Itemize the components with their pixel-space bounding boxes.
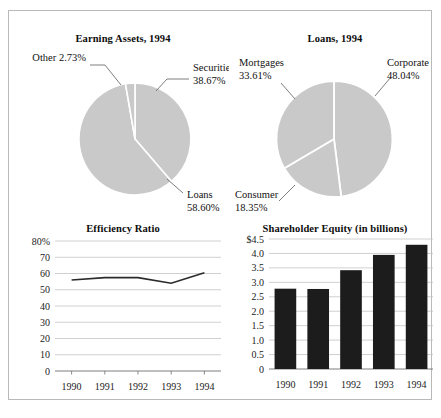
equity-x-tick: 1992	[341, 379, 361, 390]
efficiency-x-tick: 1991	[95, 381, 115, 392]
leader-line-mortgages	[281, 83, 295, 99]
efficiency-y-tick: 30	[40, 317, 50, 328]
efficiency-x-tick: 1992	[128, 381, 148, 392]
chart-title-earning-assets: Earning Assets, 1994	[17, 33, 229, 44]
leader-line-consumer	[279, 185, 295, 201]
equity-bar	[340, 270, 362, 369]
efficiency-y-tick: 50	[40, 284, 50, 295]
pie-label-other: Other 2.73%	[32, 52, 86, 63]
equity-y-tick: 1.5	[252, 320, 265, 331]
shareholder-equity-svg: 00.51.01.52.02.53.03.54.0$4.5 1990199119…	[229, 217, 441, 411]
chart-shareholder-equity: Shareholder Equity (in billions) 00.51.0…	[229, 217, 441, 411]
pie-label-securities: Securities	[193, 62, 229, 73]
equity-y-tick: 4.0	[252, 248, 265, 259]
chart-loans: Loans, 1994 Corporate 48.04% Mortgages 3…	[229, 21, 441, 217]
equity-y-tick: 0	[259, 364, 264, 375]
pie-value-securities: 38.67%	[193, 75, 226, 86]
equity-x-tick: 1990	[275, 379, 295, 390]
chart-efficiency-ratio: Efficiency Ratio 01020304050607080% 1990…	[17, 217, 229, 411]
pie-value-consumer: 18.35%	[235, 202, 268, 213]
efficiency-y-tick: 70	[40, 252, 50, 263]
earning-assets-pie-svg: Securities 38.67% Other 2.73% Loans 58.6…	[17, 21, 229, 217]
pie-label-consumer: Consumer	[235, 189, 279, 200]
chart-title-shareholder-equity: Shareholder Equity (in billions)	[229, 223, 441, 234]
equity-y-tick: 1.0	[252, 335, 265, 346]
equity-x-tick-labels: 19901991199219931994	[275, 379, 426, 390]
equity-x-tick: 1993	[374, 379, 394, 390]
pie-value-loans: 58.60%	[187, 202, 220, 213]
pie-label-corporate: Corporate	[387, 57, 429, 68]
efficiency-y-tick: 10	[40, 349, 50, 360]
pie-slice-corporate	[334, 81, 392, 197]
efficiency-x-tick: 1993	[161, 381, 181, 392]
equity-x-tick: 1994	[407, 379, 427, 390]
equity-bar	[406, 245, 428, 369]
equity-y-tick: 3.5	[252, 262, 265, 273]
equity-bar	[275, 289, 297, 369]
figure-frame: Earning Assets, 1994 Securities 38.67% O…	[8, 10, 432, 400]
efficiency-x-tick: 1990	[62, 381, 82, 392]
chart-title-efficiency-ratio: Efficiency Ratio	[17, 223, 229, 234]
efficiency-grid	[55, 241, 221, 375]
equity-y-tick: 2.0	[252, 306, 265, 317]
equity-bars	[275, 245, 428, 369]
leader-line-other	[90, 65, 121, 85]
efficiency-x-tick-labels: 19901991199219931994	[62, 381, 215, 392]
equity-y-tick: 0.5	[252, 349, 265, 360]
efficiency-y-tick: 40	[40, 301, 50, 312]
pie-label-loans: Loans	[187, 189, 213, 200]
equity-x-tick: 1991	[308, 379, 328, 390]
equity-bar	[373, 255, 395, 369]
efficiency-ratio-svg: 01020304050607080% 19901991199219931994	[17, 217, 229, 411]
efficiency-y-tick: 20	[40, 333, 50, 344]
efficiency-y-tick: 0	[45, 366, 50, 377]
leader-line-loans	[167, 179, 183, 193]
equity-y-tick-labels: 00.51.01.52.02.53.03.54.0$4.5	[247, 234, 265, 375]
loans-pie-svg: Corporate 48.04% Mortgages 33.61% Consum…	[229, 21, 441, 217]
chart-earning-assets: Earning Assets, 1994 Securities 38.67% O…	[17, 21, 229, 217]
efficiency-y-tick-labels: 01020304050607080%	[32, 236, 50, 377]
pie-label-mortgages: Mortgages	[239, 57, 284, 68]
pie-value-mortgages: 33.61%	[239, 70, 272, 81]
equity-bar	[307, 289, 329, 369]
equity-y-tick: 2.5	[252, 291, 265, 302]
efficiency-x-tick: 1994	[194, 381, 214, 392]
equity-y-tick: 3.0	[252, 277, 265, 288]
equity-y-tick: $4.5	[247, 234, 265, 245]
pie-value-corporate: 48.04%	[387, 70, 420, 81]
efficiency-line-series	[72, 273, 205, 284]
chart-title-loans: Loans, 1994	[229, 33, 441, 44]
efficiency-y-tick: 60	[40, 268, 50, 279]
efficiency-y-tick: 80%	[32, 236, 50, 247]
